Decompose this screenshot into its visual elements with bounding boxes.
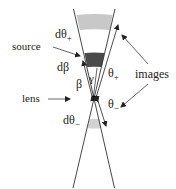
lens-point: [91, 95, 96, 100]
label-images: images: [135, 67, 169, 81]
label-gamma: γ: [88, 72, 94, 84]
source-pointer-arrow: [53, 47, 80, 56]
label-theta-minus: θ−: [108, 97, 119, 113]
lensing-diagram: dθ+ source dβ β γ θ+ images lens θ− dθ−: [0, 0, 176, 189]
label-beta: β: [76, 77, 82, 91]
label-source: source: [12, 40, 41, 52]
images-pointer-upper: [122, 35, 148, 64]
label-dtheta-minus: dθ−: [63, 113, 80, 129]
image-plus-band: [77, 14, 113, 30]
label-lens: lens: [22, 92, 40, 104]
images-pointer-lower: [121, 84, 148, 107]
label-dbeta: dβ: [57, 60, 69, 74]
label-dtheta-plus: dθ+: [55, 27, 72, 43]
label-theta-plus: θ+: [108, 66, 119, 82]
